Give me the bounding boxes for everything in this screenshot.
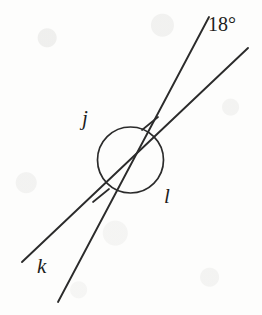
label-line-k: k [37,256,46,277]
label-line-l: l [164,186,170,207]
label-angle-measure: 18° [208,14,236,34]
line-kl-stroke [22,48,248,262]
angle-tick-lower-left [93,189,109,202]
geometry-figure: j l k 18° [0,0,262,315]
diagram-strokes [22,17,248,302]
label-line-j: j [82,108,88,129]
line-j-stroke [58,17,209,302]
